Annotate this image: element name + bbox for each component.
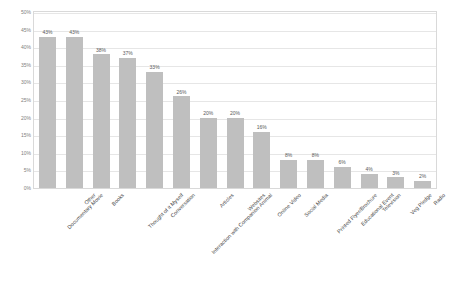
- bar[interactable]: [146, 72, 163, 188]
- bar-slot: 20%: [200, 12, 217, 188]
- bar[interactable]: [200, 118, 217, 188]
- bar[interactable]: [173, 96, 190, 188]
- bar-value-label: 20%: [200, 110, 217, 116]
- bar-value-label: 20%: [227, 110, 244, 116]
- bar-slot: 38%: [93, 12, 110, 188]
- bar-value-label: 33%: [146, 64, 163, 70]
- bar[interactable]: [227, 118, 244, 188]
- y-axis-tick-label: 10%: [3, 150, 31, 156]
- bar-value-label: 16%: [253, 124, 270, 130]
- y-axis-tick-label: 40%: [3, 44, 31, 50]
- bar[interactable]: [39, 37, 56, 188]
- bar-value-label: 37%: [119, 50, 136, 56]
- x-axis-tick-label: Articles: [218, 192, 235, 209]
- y-axis-tick-label: 50%: [3, 9, 31, 15]
- bar[interactable]: [119, 58, 136, 188]
- x-axis-tick-label: Educational Event: [360, 192, 395, 227]
- bar-value-label: 2%: [414, 173, 431, 179]
- bar-slot: 16%: [253, 12, 270, 188]
- bar-value-label: 4%: [361, 166, 378, 172]
- bar-value-label: 43%: [39, 29, 56, 35]
- x-axis-labels: Documentary MovieOtherBooksThought of it…: [34, 192, 436, 292]
- y-axis-tick-label: 15%: [3, 132, 31, 138]
- y-axis-tick-label: 5%: [3, 167, 31, 173]
- x-axis-tick-label: Veg Pledge: [409, 192, 433, 216]
- x-axis-tick-label: Books: [110, 192, 125, 207]
- y-axis-tick-label: 45%: [3, 27, 31, 33]
- bar-slot: 8%: [307, 12, 324, 188]
- bar-slot: 4%: [361, 12, 378, 188]
- y-axis-tick-label: 35%: [3, 62, 31, 68]
- bar-value-label: 43%: [66, 29, 83, 35]
- bar-value-label: 8%: [307, 152, 324, 158]
- bar-value-label: 8%: [280, 152, 297, 158]
- y-axis: 50%45%40%35%30%25%20%15%10%5%0%: [0, 11, 31, 189]
- bar[interactable]: [93, 54, 110, 188]
- bar-value-label: 38%: [93, 47, 110, 53]
- y-axis-tick-label: 30%: [3, 79, 31, 85]
- y-axis-tick-label: 0%: [3, 185, 31, 191]
- bar-slot: 20%: [227, 12, 244, 188]
- bar[interactable]: [253, 132, 270, 188]
- bar-slot: 33%: [146, 12, 163, 188]
- bar-slot: 43%: [66, 12, 83, 188]
- x-axis-tick-label: Radio: [432, 192, 446, 206]
- bar-slot: 6%: [334, 12, 351, 188]
- bar[interactable]: [414, 181, 431, 188]
- x-axis-tick-label: Online Video: [276, 192, 302, 218]
- bar-value-label: 6%: [334, 159, 351, 165]
- x-axis-tick-label: Social Media: [303, 192, 329, 218]
- bar[interactable]: [334, 167, 351, 188]
- bar-chart: 50%45%40%35%30%25%20%15%10%5%0% 43%43%38…: [0, 0, 451, 294]
- bar-slot: 37%: [119, 12, 136, 188]
- bar-value-label: 26%: [173, 89, 190, 95]
- bar-slot: 26%: [173, 12, 190, 188]
- bar[interactable]: [307, 160, 324, 188]
- bar-slot: 8%: [280, 12, 297, 188]
- bar-slot: 3%: [387, 12, 404, 188]
- bar[interactable]: [387, 177, 404, 188]
- bar[interactable]: [361, 174, 378, 188]
- bars-layer: 43%43%38%37%33%26%20%20%16%8%8%6%4%3%2%: [34, 12, 436, 188]
- bar[interactable]: [66, 37, 83, 188]
- bar-slot: 2%: [414, 12, 431, 188]
- y-axis-tick-label: 25%: [3, 97, 31, 103]
- y-axis-tick-label: 20%: [3, 115, 31, 121]
- bar[interactable]: [280, 160, 297, 188]
- bar-slot: 43%: [39, 12, 56, 188]
- bar-value-label: 3%: [387, 170, 404, 176]
